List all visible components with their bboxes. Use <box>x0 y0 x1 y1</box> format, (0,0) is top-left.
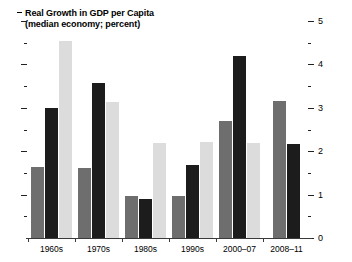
bars-layer <box>0 0 352 238</box>
bar <box>31 167 44 238</box>
bar <box>186 165 199 238</box>
x-axis-category-label: 1970s <box>75 244 122 254</box>
bar <box>92 83 105 238</box>
x-axis-tick <box>75 238 76 242</box>
bar <box>106 102 119 238</box>
bar <box>287 144 300 238</box>
bar <box>125 196 138 238</box>
x-axis-tick <box>122 238 123 242</box>
bar <box>200 142 213 238</box>
x-axis-category-label: 1960s <box>28 244 75 254</box>
bar <box>172 196 185 238</box>
bar <box>273 101 286 238</box>
x-axis-tick <box>216 238 217 242</box>
x-axis-category-label: 1990s <box>169 244 216 254</box>
bar <box>153 143 166 238</box>
x-axis-category-label: 2000–07 <box>216 244 263 254</box>
bar <box>45 108 58 238</box>
bar <box>233 56 246 238</box>
x-axis-tick <box>263 238 264 242</box>
x-axis-tick <box>169 238 170 242</box>
chart-figure: Real Growth in GDP per Capita (median ec… <box>0 0 352 262</box>
bar <box>139 199 152 238</box>
bar <box>78 168 91 238</box>
bar <box>219 121 232 238</box>
x-axis-category-label: 2008–11 <box>263 244 310 254</box>
bar <box>59 41 72 238</box>
x-axis-category-label: 1980s <box>122 244 169 254</box>
bar <box>247 143 260 238</box>
x-axis-tick <box>28 238 29 242</box>
